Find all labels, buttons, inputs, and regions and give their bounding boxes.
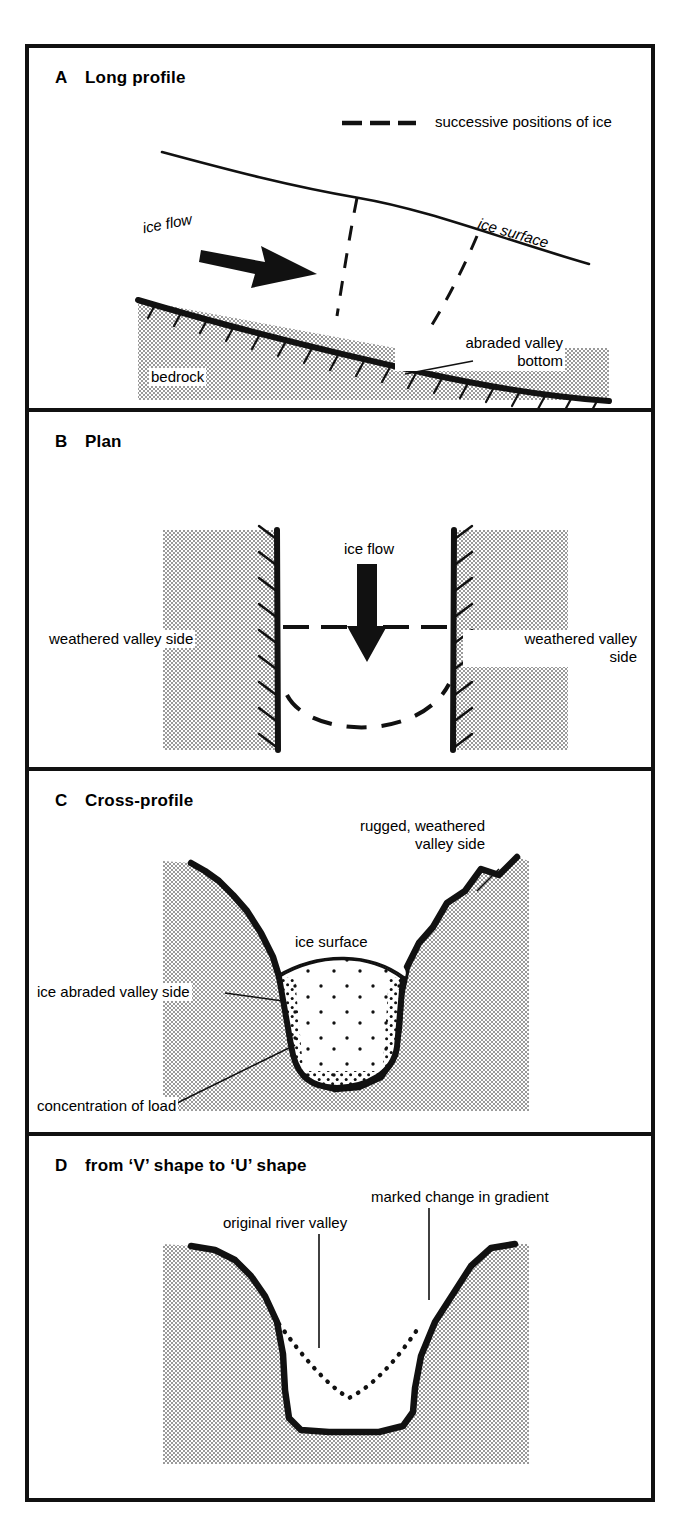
panel-d-title: Dfrom ‘V’ shape to ‘U’ shape [55,1156,307,1176]
label-rugged-weathered-valley-side: rugged, weathered valley side [311,817,487,854]
panel-c-cross-profile: CCross-profile rugged, weathered valley … [29,771,651,1132]
leader-abraded-valley [405,361,473,374]
panel-d-v-to-u: Dfrom ‘V’ shape to ‘U’ shape marked chan… [29,1136,651,1498]
weathered-right-line2: side [609,648,637,665]
panel-d-graphic [29,1136,651,1498]
original-river-valley-dotted [279,1324,421,1398]
label-bedrock: bedrock [149,368,206,386]
figure-frame: ALong profile successive positions of ic… [25,44,655,1502]
label-weathered-valley-side-right: weathered valley side [463,630,639,667]
ice-front-curved-dashed [287,684,449,727]
rugged-line2: valley side [415,835,485,852]
panel-c-title: CCross-profile [55,791,193,811]
panel-b-plan: BPlan ice flow weathered valley side wea… [29,412,651,767]
label-ice-abraded-valley-side: ice abraded valley side [35,983,192,1001]
rugged-line1: rugged, weathered [360,817,485,834]
panel-d-letter: D [55,1156,85,1176]
panel-a-leaders [29,48,651,408]
panel-c-letter: C [55,791,85,811]
valley-wall-right [453,530,454,750]
panel-a-long-profile: ALong profile successive positions of ic… [29,48,651,408]
ice-flow-arrow-down [347,564,387,662]
valley-wall-left [277,530,278,750]
panel-d-title-text: from ‘V’ shape to ‘U’ shape [85,1156,307,1175]
label-original-river-valley: original river valley [221,1214,349,1232]
label-marked-change-in-gradient: marked change in gradient [369,1188,551,1206]
label-ice-flow-plan: ice flow [327,540,411,558]
label-weathered-valley-side-left: weathered valley side [47,630,195,648]
panel-b-title: BPlan [55,432,122,452]
weathered-right-line1: weathered valley [524,630,637,647]
figure-root: ALong profile successive positions of ic… [0,0,691,1537]
label-ice-surface-c: ice surface [293,933,370,951]
panel-b-graphic [29,412,651,767]
panel-c-title-text: Cross-profile [85,791,193,810]
panel-b-letter: B [55,432,85,452]
label-concentration-of-load: concentration of load [35,1097,178,1115]
panel-b-title-text: Plan [85,432,122,451]
